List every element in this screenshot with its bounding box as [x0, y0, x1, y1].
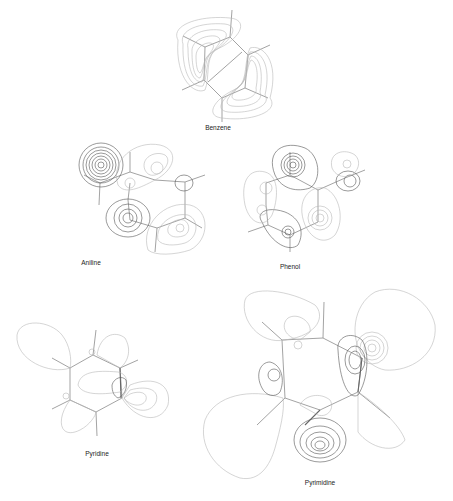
pyrimidine-orbital-contour-plot — [0, 0, 453, 501]
pyrimidine-panel: Pyrimidine — [0, 0, 453, 501]
pyrimidine-label: Pyrimidine — [305, 479, 335, 486]
